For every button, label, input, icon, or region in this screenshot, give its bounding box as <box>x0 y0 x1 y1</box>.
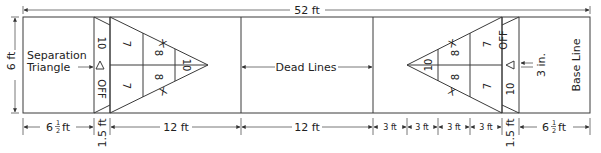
right-x-mark-bottom: X <box>446 85 457 98</box>
left-score-7-top: 7 <box>121 41 132 47</box>
separation-triangle-icon <box>96 61 104 69</box>
dead-lines-label: Dead Lines <box>275 61 336 74</box>
middle-dim: 12 ft <box>294 121 320 134</box>
left-base-dim-whole: 6 <box>46 121 53 134</box>
left-strip-dim: 1.5 ft <box>96 118 109 148</box>
right-scoring-area: OFF 10 10 8 7 8 7 X X <box>407 17 519 113</box>
right-strip-dim: 1.5 ft <box>504 118 517 148</box>
three-inch-callout: 3 in. <box>521 53 548 77</box>
segment-dim-3: 3 ft <box>447 123 460 132</box>
right-base-dim-whole: 6 <box>542 121 549 134</box>
left-x-mark-top: X <box>157 37 168 50</box>
right-score-8-bottom: 8 <box>450 74 461 80</box>
right-base-dim-den: 2 <box>552 127 556 135</box>
overall-length-dimension: 52 ft <box>23 4 590 17</box>
right-score-7-bottom: 7 <box>482 83 493 89</box>
left-score-8-top: 8 <box>153 50 164 56</box>
left-strip-off-label: OFF <box>96 79 107 99</box>
separation-label-line2: Triangle <box>26 61 70 74</box>
right-strip-off-label: OFF <box>498 30 509 50</box>
overall-length-label: 52 ft <box>294 4 320 17</box>
right-x-mark-top: X <box>447 37 458 50</box>
bottom-dimensions: 6 1 2 ft 1.5 ft 12 ft 12 ft 3 ft 3 ft 3 … <box>23 118 590 148</box>
shuffleboard-diagram: 52 ft 6 ft 10 OFF 7 8 10 7 8 X X <box>0 0 601 153</box>
separation-triangle-callout: Separation Triangle <box>26 49 93 74</box>
court-width-dimension: 6 ft <box>5 17 19 113</box>
left-score-8-bottom: 8 <box>153 74 164 80</box>
dead-lines: Dead Lines <box>241 17 373 113</box>
segment-dim-2: 3 ft <box>415 123 428 132</box>
right-score-8-top: 8 <box>450 50 461 56</box>
right-base-dim-num: 1 <box>552 119 556 127</box>
left-score-7-bottom: 7 <box>121 83 132 89</box>
left-x-mark-bottom: X <box>158 85 169 98</box>
right-strip-10-label: 10 <box>505 83 516 96</box>
left-scoring-area: 10 OFF 7 8 10 7 8 X X <box>94 17 208 113</box>
three-inch-label: 3 in. <box>535 53 548 77</box>
right-base-dim-unit: ft <box>558 121 567 134</box>
left-base-dim-den: 2 <box>56 127 60 135</box>
left-base-dim-num: 1 <box>56 119 60 127</box>
court-width-label: 6 ft <box>5 51 18 70</box>
segment-dim-1: 3 ft <box>383 123 396 132</box>
left-base-dim-unit: ft <box>62 121 71 134</box>
left-strip-10-label: 10 <box>96 37 107 50</box>
left-triangle-dim: 12 ft <box>163 121 189 134</box>
right-score-10: 10 <box>423 59 434 72</box>
right-separation-triangle-icon <box>506 61 514 69</box>
right-score-7-top: 7 <box>482 41 493 47</box>
base-line-label: Base Line <box>570 38 583 91</box>
segment-dim-4: 3 ft <box>479 123 492 132</box>
left-score-10: 10 <box>181 59 192 72</box>
